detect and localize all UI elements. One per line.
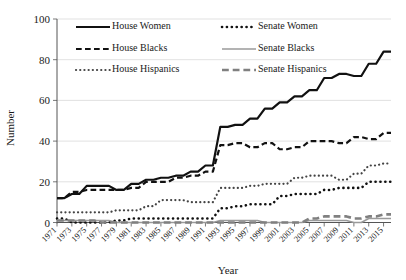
x-tick-label: 2015 [366, 225, 385, 244]
y-tick-label: 40 [39, 135, 51, 147]
x-axis: 1971197319751977197919811983198519871989… [39, 223, 391, 244]
legend-label: Senate Women [258, 20, 318, 31]
y-axis: 020406080100 [34, 13, 58, 229]
y-tick-label: 80 [39, 54, 51, 66]
legend-label: Senate Blacks [258, 42, 314, 53]
series-line-house-women [57, 52, 391, 199]
y-tick-label: 20 [39, 176, 51, 188]
series-line-senate-women [57, 182, 391, 223]
legend-label: Senate Hispanics [258, 63, 327, 74]
series-line-house-blacks [57, 133, 391, 198]
y-tick-label: 60 [39, 94, 51, 106]
y-axis-title: Number [4, 110, 16, 146]
y-tick-label: 100 [34, 13, 51, 25]
plot-series [57, 52, 391, 223]
x-axis-title: Year [218, 264, 239, 276]
chart-legend: House WomenSenate WomenHouse BlacksSenat… [76, 20, 327, 74]
chart-container: 020406080100 197119731975197719791981198… [0, 0, 406, 280]
legend-label: House Hispanics [112, 63, 180, 74]
series-line-house-hispanics [57, 163, 391, 212]
legend-label: House Women [112, 20, 171, 31]
series-line-senate-hispanics [57, 214, 391, 222]
legend-label: House Blacks [112, 42, 167, 53]
line-chart: 020406080100 197119731975197719791981198… [0, 0, 406, 280]
